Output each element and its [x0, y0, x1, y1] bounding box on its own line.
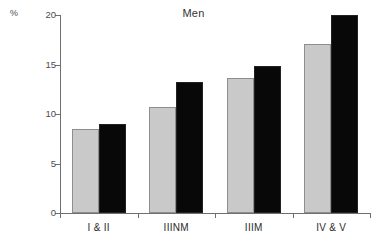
x-tick-mark [60, 213, 61, 218]
bar-light-gray-bar-i-ii [72, 129, 99, 213]
x-axis-category-label: I & II [88, 222, 110, 233]
bar-light-gray-bar-iiim [227, 78, 254, 213]
bar-light-gray-bar-iiinm [149, 107, 176, 213]
x-tick-mark [293, 213, 294, 218]
bar-black-bar-i-ii [99, 124, 126, 213]
y-tick-label: 15 [45, 59, 56, 70]
y-tick-label: 0 [51, 207, 56, 218]
y-tick-20: 20 [60, 15, 65, 16]
bar-black-bar-iiim [254, 66, 281, 213]
y-tick-5: 5 [60, 164, 65, 165]
bar-black-bar-iiinm [176, 82, 203, 213]
y-tick-label: 20 [45, 9, 56, 20]
x-axis-category-label: IIIM [245, 222, 263, 233]
x-tick-mark [370, 213, 371, 218]
bar-light-gray-bar-iv-v [304, 44, 331, 213]
x-axis-category-label: IIINM [164, 222, 189, 233]
y-tick-label: 5 [51, 158, 56, 169]
x-axis-category-label: IV & V [316, 222, 346, 233]
x-tick-mark [138, 213, 139, 218]
bar-black-bar-iv-v [331, 15, 358, 213]
y-tick-15: 15 [60, 65, 65, 66]
x-tick-mark [215, 213, 216, 218]
y-tick-label: 10 [45, 108, 56, 119]
plot-area: 05101520 [60, 15, 370, 213]
y-tick-10: 10 [60, 114, 65, 115]
bar-chart: % Men 05101520 I & IIIIINMIIIMIV & V [0, 0, 387, 251]
